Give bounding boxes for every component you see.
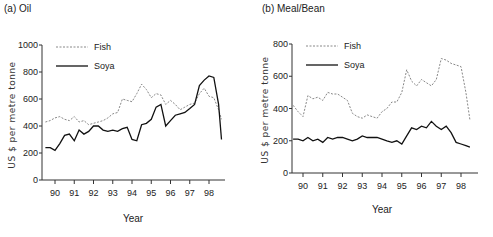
x-tick-label: 93: [108, 188, 118, 198]
x-tick-label: 91: [69, 188, 79, 198]
panel-title: (b) Meal/Bean: [262, 3, 325, 14]
chart-panel-meal-bean: (b) Meal/Bean US $ per metre tonne Year …: [260, 3, 478, 215]
x-tick-label: 97: [185, 188, 195, 198]
x-tick-label: 95: [146, 188, 156, 198]
legend-label: Fish: [94, 42, 111, 52]
y-tick-label: 200: [23, 148, 38, 158]
x-tick-label: 98: [456, 181, 466, 191]
x-axis-label: Year: [123, 213, 144, 224]
x-tick-label: 90: [298, 181, 308, 191]
x-tick-label: 92: [337, 181, 347, 191]
y-tick-label: 800: [273, 39, 288, 49]
y-tick-label: 400: [273, 104, 288, 114]
legend-label: Soya: [344, 60, 365, 70]
data-lines: [293, 59, 470, 148]
y-tick-label: 0: [33, 175, 38, 185]
series-line-soya: [45, 76, 221, 150]
chart-canvas: (a) Oil US $ per metre tonne Year 020040…: [0, 0, 493, 237]
chart-panel-oil: (a) Oil US $ per metre tonne Year 020040…: [4, 3, 225, 224]
legend-label: Soya: [94, 61, 115, 71]
y-tick-label: 800: [23, 67, 38, 77]
x-tick-label: 98: [204, 188, 214, 198]
y-axis-label: US $ per metre tonne: [7, 61, 17, 168]
axes: 0200400600800909192939495969798: [273, 39, 478, 191]
y-tick-label: 0: [283, 168, 288, 178]
x-tick-label: 95: [397, 181, 407, 191]
x-tick-label: 92: [88, 188, 98, 198]
y-axis-label: US $ per metre tonne: [260, 56, 270, 163]
legend: FishSoya: [306, 41, 365, 70]
x-tick-label: 90: [50, 188, 60, 198]
y-tick-label: 600: [273, 71, 288, 81]
y-tick-label: 400: [23, 121, 38, 131]
y-tick-label: 200: [273, 136, 288, 146]
y-tick-label: 1000: [18, 40, 38, 50]
series-line-soya: [293, 121, 470, 147]
x-tick-label: 96: [165, 188, 175, 198]
panel-title: (a) Oil: [4, 3, 31, 14]
x-tick-label: 93: [357, 181, 367, 191]
legend-label: Fish: [344, 41, 361, 51]
x-tick-label: 97: [436, 181, 446, 191]
data-lines: [45, 76, 221, 150]
series-line-fish: [293, 59, 470, 120]
legend: FishSoya: [56, 42, 115, 71]
axes: 02004006008001000909192939495969798: [18, 40, 225, 198]
x-tick-label: 91: [318, 181, 328, 191]
x-axis-label: Year: [372, 204, 393, 215]
x-tick-label: 94: [127, 188, 137, 198]
y-tick-label: 600: [23, 94, 38, 104]
x-tick-label: 96: [416, 181, 426, 191]
x-tick-label: 94: [377, 181, 387, 191]
